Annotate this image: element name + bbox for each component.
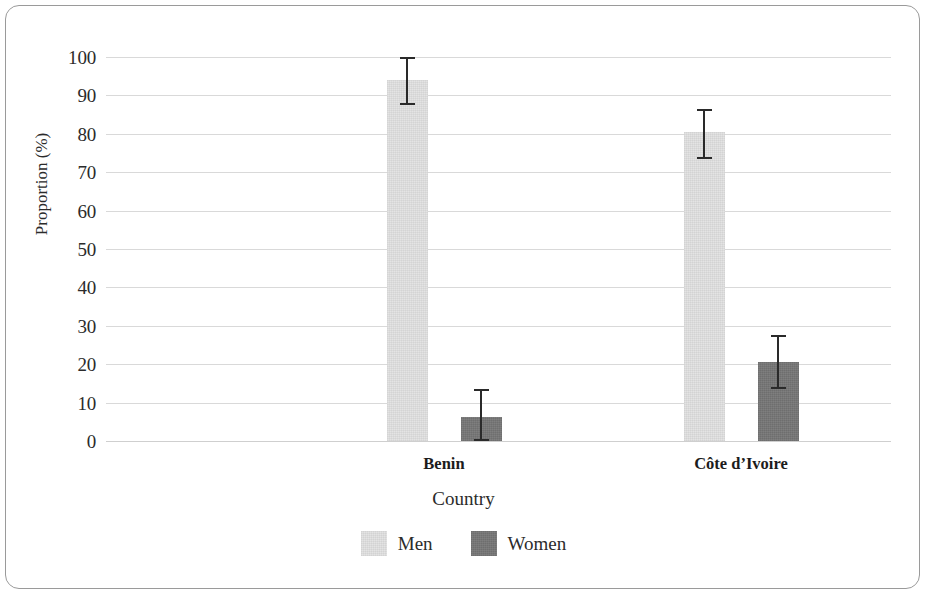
bar-c-te-d-ivoire-men	[684, 132, 725, 441]
errorbar-c-te-d-ivoire-women	[758, 335, 799, 389]
y-tick-70: 70	[54, 163, 96, 182]
legend-label-women: Women	[508, 533, 567, 555]
legend-item-men[interactable]: Men	[361, 531, 433, 556]
y-tick-50: 50	[54, 240, 96, 259]
y-tick-90: 90	[54, 86, 96, 105]
errorbar-c-te-d-ivoire-men	[684, 109, 725, 159]
y-axis-tick-labels: 0102030405060708090100	[48, 57, 96, 441]
y-tick-60: 60	[54, 201, 96, 220]
x-tick-benin: Benin	[324, 454, 564, 474]
x-tick-c-te-d-ivoire: Côte d’Ivoire	[621, 454, 861, 474]
errorbar-benin-women	[461, 389, 502, 441]
gridline-70	[106, 172, 891, 173]
y-tick-30: 30	[54, 316, 96, 335]
errorbar-stem	[480, 389, 482, 441]
errorbar-stem	[703, 109, 705, 159]
errorbar-cap-bottom	[697, 157, 712, 159]
bar-benin-men	[387, 80, 428, 441]
y-tick-20: 20	[54, 355, 96, 374]
gridline-90	[106, 95, 891, 96]
gridline-40	[106, 287, 891, 288]
errorbar-stem	[406, 57, 408, 105]
gridline-30	[106, 326, 891, 327]
legend-label-men: Men	[398, 533, 433, 555]
x-axis-title: Country	[6, 488, 921, 510]
legend-swatch-men-icon	[361, 531, 387, 556]
chart-legend: MenWomen	[6, 531, 921, 556]
gridline-100	[106, 57, 891, 58]
gridline-60	[106, 211, 891, 212]
y-tick-10: 10	[54, 393, 96, 412]
gridline-50	[106, 249, 891, 250]
gridline-80	[106, 134, 891, 135]
y-tick-100: 100	[54, 48, 96, 67]
y-tick-0: 0	[54, 432, 96, 451]
errorbar-cap-bottom	[771, 387, 786, 389]
plot-area	[106, 57, 891, 441]
errorbar-cap-bottom	[400, 103, 415, 105]
errorbar-stem	[777, 335, 779, 389]
y-tick-80: 80	[54, 124, 96, 143]
legend-swatch-women-icon	[471, 531, 497, 556]
y-tick-40: 40	[54, 278, 96, 297]
chart-figure-frame: Proportion (%) 0102030405060708090100 Be…	[5, 5, 920, 589]
gridline-0	[106, 441, 891, 442]
errorbar-benin-men	[387, 57, 428, 105]
errorbar-cap-bottom	[474, 439, 489, 441]
legend-item-women[interactable]: Women	[471, 531, 567, 556]
